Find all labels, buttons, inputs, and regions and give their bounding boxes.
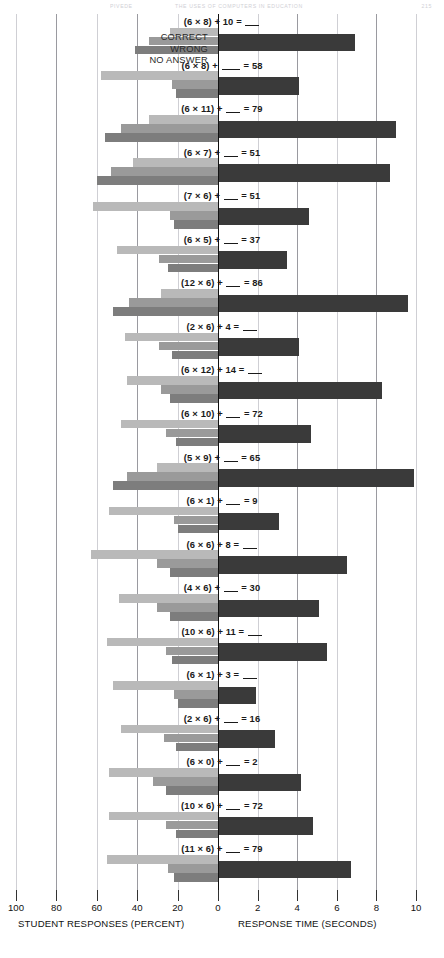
legend-item-correct: CORRECT: [48, 32, 208, 44]
bar-response-time: [218, 164, 390, 182]
problem-label: (6 × 7) + = 51: [0, 146, 444, 159]
answer-blank: [245, 16, 259, 26]
running-head-title: THE USES OF COMPUTERS IN EDUCATION: [175, 3, 303, 9]
problem-label: (6 × 0) + = 2: [0, 755, 444, 768]
problem-label: (6 × 8) + 10 =: [0, 15, 444, 28]
bar-response-time: [218, 513, 279, 531]
running-head-page: 215: [422, 3, 432, 9]
seconds-10-tick: [416, 890, 417, 901]
bars-row: [0, 811, 444, 841]
chart-page: PIVEDE THE USES OF COMPUTERS IN EDUCATIO…: [0, 0, 444, 958]
plot-area: CORRECTWRONGNO ANSWER (6 × 8) + 10 = (6 …: [0, 14, 444, 890]
bar-no-answer: [113, 481, 218, 490]
bar-group: (10 × 6) + = 72: [0, 799, 444, 843]
bar-no-answer: [178, 699, 218, 708]
bar-no-answer: [176, 743, 218, 752]
bar-group: (11 × 6) + = 79: [0, 842, 444, 886]
problem-label: (6 × 1) + 3 =: [0, 668, 444, 681]
bar-correct: [91, 550, 218, 559]
problem-label: (6 × 6) + 8 =: [0, 538, 444, 551]
bar-correct: [119, 594, 218, 603]
bars-row: [0, 855, 444, 885]
answer-blank: [226, 800, 240, 810]
answer-blank: [224, 190, 238, 200]
running-head-left: PIVEDE: [110, 3, 133, 9]
bar-response-time: [218, 338, 299, 356]
bar-correct: [107, 638, 218, 647]
bar-wrong: [161, 385, 218, 394]
bars-row: [0, 158, 444, 188]
bar-no-answer: [176, 89, 218, 98]
answer-blank: [224, 147, 238, 157]
bar-response-time: [218, 643, 327, 661]
bar-group: (4 × 6) + = 30: [0, 581, 444, 625]
bar-wrong: [166, 647, 219, 656]
bar-response-time: [218, 817, 313, 835]
bar-no-answer: [113, 307, 218, 316]
bar-response-time: [218, 295, 408, 313]
bar-wrong: [127, 472, 218, 481]
bars-row: [0, 768, 444, 798]
seconds-6-label: 6: [334, 902, 339, 913]
answer-blank: [226, 756, 240, 766]
bar-no-answer: [170, 394, 219, 403]
problem-label: (7 × 6) + = 51: [0, 189, 444, 202]
bars-row: [0, 550, 444, 580]
running-head: PIVEDE THE USES OF COMPUTERS IN EDUCATIO…: [0, 0, 444, 12]
bar-correct: [125, 333, 218, 342]
percent-100-label: 100: [8, 902, 24, 913]
bar-no-answer: [105, 133, 218, 142]
percent-60-tick: [97, 890, 98, 901]
bar-group: (6 × 10) + = 72: [0, 407, 444, 451]
answer-blank: [224, 582, 238, 592]
percent-40-label: 40: [132, 902, 143, 913]
bar-no-answer: [166, 786, 219, 795]
bars-row: [0, 681, 444, 711]
percent-80-tick: [56, 890, 57, 901]
bar-correct: [127, 376, 218, 385]
bar-wrong: [174, 516, 218, 525]
bar-wrong: [174, 690, 218, 699]
seconds-4-label: 4: [295, 902, 300, 913]
percent-20-label: 20: [172, 902, 183, 913]
answer-blank: [243, 669, 257, 679]
bar-response-time: [218, 556, 347, 574]
bar-wrong: [164, 734, 219, 743]
seconds-8-label: 8: [374, 902, 379, 913]
bar-response-time: [218, 382, 382, 400]
bar-wrong: [159, 342, 218, 351]
bar-wrong: [159, 255, 218, 264]
bars-row: [0, 332, 444, 362]
percent-100-tick: [16, 890, 17, 901]
bars-row: [0, 507, 444, 537]
bar-wrong: [111, 167, 218, 176]
problem-label: (4 × 6) + = 30: [0, 581, 444, 594]
percent-20-tick: [178, 890, 179, 901]
seconds-2-label: 2: [255, 902, 260, 913]
bar-no-answer: [172, 656, 219, 665]
percent-60-label: 60: [91, 902, 102, 913]
bar-response-time: [218, 34, 355, 52]
bars-row: [0, 289, 444, 319]
bar-wrong: [166, 821, 219, 830]
bar-no-answer: [176, 438, 218, 447]
bar-wrong: [170, 211, 219, 220]
problem-label: (10 × 6) + = 72: [0, 799, 444, 812]
bar-correct: [101, 71, 218, 80]
axis-area: 100806040200246810 STUDENT RESPONSES (PE…: [0, 890, 444, 958]
bar-no-answer: [174, 220, 218, 229]
problem-label: (10 × 6) + 11 =: [0, 625, 444, 638]
problem-label: (6 × 5) + = 37: [0, 233, 444, 246]
bar-group: (6 × 6) + 8 =: [0, 538, 444, 582]
bar-group: (6 × 0) + = 2: [0, 755, 444, 799]
bar-no-answer: [97, 176, 218, 185]
bar-response-time: [218, 730, 275, 748]
bar-correct: [113, 681, 218, 690]
bar-wrong: [121, 124, 218, 133]
bar-correct: [109, 507, 218, 516]
bar-correct: [157, 463, 218, 472]
legend-item-no-answer: NO ANSWER: [48, 55, 208, 67]
answer-blank: [248, 364, 262, 374]
bar-group: (2 × 6) + = 16: [0, 712, 444, 756]
problem-label: (11 × 6) + = 79: [0, 842, 444, 855]
